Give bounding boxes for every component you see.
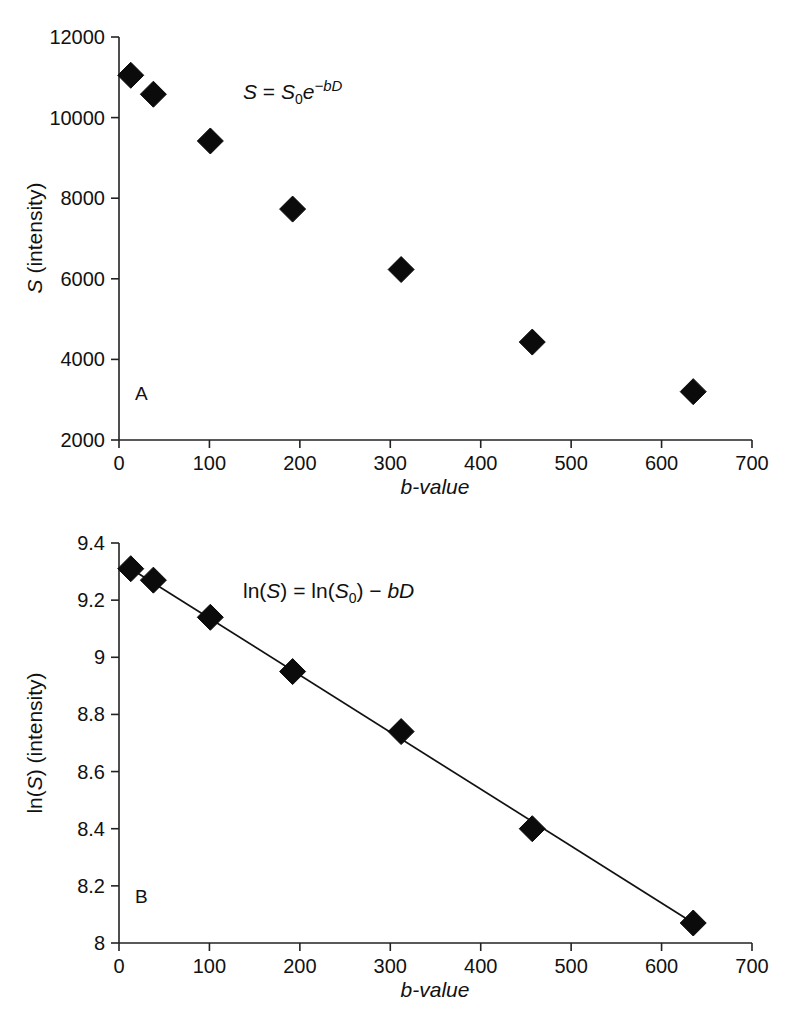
x-tick-label-b-0: 0 bbox=[113, 955, 124, 977]
eq-a-s0: S bbox=[281, 80, 295, 103]
panel-a-ylabel: S (intensity) bbox=[23, 183, 46, 294]
x-tick-label-a-0: 0 bbox=[113, 452, 124, 474]
eq-b-ln1: ln( bbox=[243, 579, 266, 602]
data-point-b-2 bbox=[197, 604, 223, 630]
panel-b-ylabel-prefix: ln( bbox=[23, 790, 46, 813]
panel-a-axes bbox=[119, 37, 752, 440]
x-tick-label-a-1: 100 bbox=[193, 452, 226, 474]
x-tick-label-b-7: 700 bbox=[735, 955, 768, 977]
panel-a-y-ticks: 20004000600080001000012000 bbox=[49, 26, 119, 451]
panel-a-ylabel-symbol: S bbox=[23, 279, 46, 293]
panel-a-equation: S = S0e−bD bbox=[243, 77, 343, 107]
eq-a-sub: 0 bbox=[295, 91, 303, 107]
y-tick-label-b-6: 9.2 bbox=[77, 589, 105, 611]
panel-b-plot: 88.28.48.68.899.29.4 0100200300400500600… bbox=[0, 500, 789, 1019]
data-point-a-6 bbox=[680, 379, 706, 405]
data-point-b-0 bbox=[118, 556, 144, 582]
y-tick-label-b-3: 8.6 bbox=[77, 761, 105, 783]
y-tick-label-a-5: 12000 bbox=[49, 26, 105, 48]
panel-b-y-ticks: 88.28.48.68.899.29.4 bbox=[77, 532, 119, 954]
panel-b-x-ticks: 0100200300400500600700 bbox=[113, 943, 768, 977]
y-tick-label-b-2: 8.4 bbox=[77, 818, 105, 840]
x-tick-label-b-3: 300 bbox=[374, 955, 407, 977]
eq-a-exponent: −bD bbox=[314, 77, 342, 94]
panel-b: 88.28.48.68.899.29.4 0100200300400500600… bbox=[0, 500, 789, 1019]
eq-b-s2: S bbox=[335, 579, 349, 602]
eq-b-s1: S bbox=[266, 579, 280, 602]
eq-a-e: e bbox=[303, 80, 315, 103]
y-tick-label-b-4: 8.8 bbox=[77, 703, 105, 725]
panel-b-ylabel-symbol: S bbox=[23, 776, 46, 790]
eq-b-sub: 0 bbox=[349, 590, 357, 606]
panel-a-x-ticks: 0100200300400500600700 bbox=[113, 440, 768, 474]
figure-container: 20004000600080001000012000 0100200300400… bbox=[0, 0, 789, 1019]
x-tick-label-a-7: 700 bbox=[735, 452, 768, 474]
panel-b-ylabel-suffix: ) (intensity) bbox=[23, 672, 46, 776]
x-tick-label-b-6: 600 bbox=[645, 955, 678, 977]
y-tick-label-a-0: 2000 bbox=[61, 429, 106, 451]
eq-b-close1: ) = ln( bbox=[280, 579, 334, 602]
y-tick-label-b-5: 9 bbox=[94, 646, 105, 668]
y-tick-label-b-0: 8 bbox=[94, 932, 105, 954]
x-tick-label-b-2: 200 bbox=[283, 955, 316, 977]
panel-a-plot: 20004000600080001000012000 0100200300400… bbox=[0, 0, 789, 510]
data-point-a-5 bbox=[519, 329, 545, 355]
panel-b-ylabel: ln(S) (intensity) bbox=[23, 672, 46, 813]
eq-b-close2: ) − bbox=[356, 579, 387, 602]
data-point-b-3 bbox=[280, 659, 306, 685]
data-point-a-4 bbox=[388, 257, 414, 283]
x-tick-label-a-2: 200 bbox=[283, 452, 316, 474]
data-point-b-5 bbox=[519, 816, 545, 842]
x-tick-label-a-3: 300 bbox=[374, 452, 407, 474]
panel-b-axes bbox=[119, 543, 752, 943]
x-tick-label-b-4: 400 bbox=[464, 955, 497, 977]
data-point-a-1 bbox=[140, 81, 166, 107]
y-tick-label-b-7: 9.4 bbox=[77, 532, 105, 554]
data-point-a-2 bbox=[197, 128, 223, 154]
panel-a-ylabel-suffix: (intensity) bbox=[23, 183, 46, 280]
data-point-a-0 bbox=[118, 62, 144, 88]
panel-a-xlabel: b-value bbox=[401, 475, 470, 498]
data-point-b-4 bbox=[388, 719, 414, 745]
y-tick-label-a-3: 8000 bbox=[61, 187, 106, 209]
panel-b-letter: B bbox=[135, 886, 148, 907]
x-tick-label-a-5: 500 bbox=[554, 452, 587, 474]
x-tick-label-b-5: 500 bbox=[554, 955, 587, 977]
x-tick-label-a-4: 400 bbox=[464, 452, 497, 474]
eq-a-lhs: S bbox=[243, 80, 257, 103]
panel-a-letter: A bbox=[135, 383, 148, 404]
panel-a-data-points bbox=[118, 62, 706, 404]
y-tick-label-a-2: 6000 bbox=[61, 268, 106, 290]
x-tick-label-b-1: 100 bbox=[193, 955, 226, 977]
data-point-b-6 bbox=[680, 910, 706, 936]
y-tick-label-b-1: 8.2 bbox=[77, 875, 105, 897]
x-tick-label-a-6: 600 bbox=[645, 452, 678, 474]
eq-b-bd: bD bbox=[387, 579, 414, 602]
panel-b-xlabel: b-value bbox=[401, 978, 470, 1001]
panel-b-equation: ln(S) = ln(S0) − bD bbox=[243, 579, 414, 606]
data-point-a-3 bbox=[280, 196, 306, 222]
y-tick-label-a-4: 10000 bbox=[49, 107, 105, 129]
y-tick-label-a-1: 4000 bbox=[61, 348, 106, 370]
panel-a: 20004000600080001000012000 0100200300400… bbox=[0, 0, 789, 510]
